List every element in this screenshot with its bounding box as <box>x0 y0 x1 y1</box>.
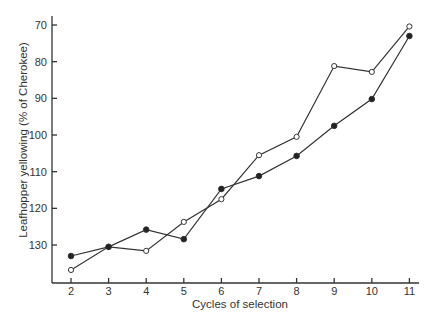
y-tick-label: 80 <box>35 56 47 68</box>
plot-area <box>68 24 412 273</box>
open-circle-marker <box>294 134 299 139</box>
open-circle-marker <box>181 219 186 224</box>
open-circle-marker <box>332 63 337 68</box>
x-tick-label: 11 <box>404 285 415 297</box>
y-ticks: 708090100110120130 <box>29 19 57 251</box>
x-tick-label: 10 <box>366 285 378 297</box>
x-tick-label: 9 <box>331 285 337 297</box>
filled-circle-marker <box>181 236 187 242</box>
series-line <box>71 26 409 269</box>
open-circle-marker <box>256 153 261 158</box>
y-tick-label: 90 <box>35 92 47 104</box>
open-circle-marker <box>407 24 412 29</box>
x-tick-label: 8 <box>294 285 300 297</box>
y-tick-label: 100 <box>29 129 47 141</box>
series-open-circle <box>71 26 409 269</box>
y-tick-label: 120 <box>29 202 47 214</box>
x-axis-title: Cycles of selection <box>192 298 288 310</box>
y-tick-label: 130 <box>29 239 47 251</box>
x-tick-label: 6 <box>218 285 224 297</box>
x-tick-label: 2 <box>68 285 74 297</box>
filled-circle-marker <box>68 253 74 259</box>
series-line <box>71 36 409 256</box>
filled-circle-marker <box>106 244 112 250</box>
x-tick-label: 3 <box>106 285 112 297</box>
y-tick-label: 110 <box>29 166 47 178</box>
y-axis-title: Leafhopper yellowing (% of Cherokee) <box>17 42 29 238</box>
filled-circle-marker <box>369 96 375 102</box>
line-chart: 708090100110120130 Leafhopper yellowing … <box>0 0 436 323</box>
filled-circle-marker <box>294 153 300 159</box>
x-tick-label: 4 <box>143 285 149 297</box>
x-tick-label: 7 <box>256 285 262 297</box>
filled-circle-marker <box>331 123 337 129</box>
filled-circle-marker <box>143 227 149 233</box>
x-ticks: 234567891011 <box>68 278 415 297</box>
x-tick-label: 5 <box>181 285 187 297</box>
filled-circle-marker <box>219 186 225 192</box>
open-circle-marker <box>68 267 73 272</box>
y-tick-label: 70 <box>35 19 47 31</box>
filled-circle-marker <box>256 173 262 179</box>
filled-circle-marker <box>407 33 413 39</box>
series-filled-circle <box>71 36 409 256</box>
open-circle-marker <box>219 197 224 202</box>
open-circle-marker <box>144 248 149 253</box>
markers-open-circle <box>68 24 412 273</box>
x-axis: 234567891011 Cycles of selection <box>52 278 419 310</box>
open-circle-marker <box>369 69 374 74</box>
markers-filled-circle <box>68 33 412 259</box>
y-axis: 708090100110120130 Leafhopper yellowing … <box>17 16 57 283</box>
